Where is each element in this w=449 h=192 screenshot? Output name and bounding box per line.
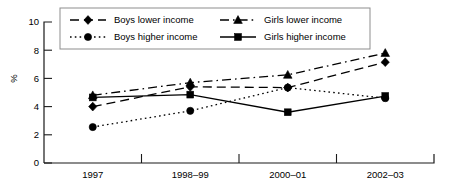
chart-canvas: 0246810 19971998–992000–012002–03 % Boys… xyxy=(0,0,449,192)
y-axis-title: % xyxy=(8,74,19,83)
chart-legend: Boys lower incomeGirls lower incomeBoys … xyxy=(60,8,370,49)
legend-marker xyxy=(84,33,91,40)
y-axis-line xyxy=(44,22,52,163)
data-point-marker xyxy=(187,107,194,114)
data-point-marker xyxy=(382,93,389,100)
y-tick-label: 4 xyxy=(34,101,39,112)
series-girls-lower-income xyxy=(88,49,389,99)
y-tick-label: 2 xyxy=(34,129,39,140)
y-tick-label: 8 xyxy=(34,45,39,56)
data-point-marker xyxy=(89,94,96,101)
data-point-marker xyxy=(381,58,389,67)
y-axis-tick-labels: 0246810 xyxy=(28,16,39,168)
x-tick-label: 1998–99 xyxy=(172,169,209,180)
data-point-marker xyxy=(381,49,390,57)
x-axis-tick-labels: 19971998–992000–012002–03 xyxy=(82,169,404,180)
series-line xyxy=(93,88,386,127)
series-boys-higher-income xyxy=(89,84,389,131)
line-chart: 0246810 19971998–992000–012002–03 % Boys… xyxy=(0,0,449,192)
legend-item: Boys lower income xyxy=(70,14,194,25)
series-girls-higher-income xyxy=(89,91,388,115)
data-point-marker xyxy=(187,91,194,98)
legend-label: Girls higher income xyxy=(264,31,346,42)
data-point-marker xyxy=(89,123,96,130)
x-tick-label: 2000–01 xyxy=(269,169,306,180)
x-tick-label: 2002–03 xyxy=(367,169,404,180)
legend-label: Girls lower income xyxy=(264,14,342,25)
series-line xyxy=(93,62,386,106)
data-point-marker xyxy=(89,102,97,111)
chart-series-layer xyxy=(88,49,389,131)
legend-label: Boys higher income xyxy=(114,31,197,42)
y-tick-label: 10 xyxy=(28,16,39,27)
y-axis-ticks xyxy=(44,50,52,163)
x-axis-ticks xyxy=(142,154,337,163)
y-tick-label: 6 xyxy=(34,73,39,84)
data-point-marker xyxy=(284,109,291,116)
legend-label: Boys lower income xyxy=(114,14,194,25)
legend-marker xyxy=(235,34,242,41)
data-point-marker xyxy=(284,84,291,91)
x-tick-label: 1997 xyxy=(82,169,103,180)
y-tick-label: 0 xyxy=(34,157,39,168)
